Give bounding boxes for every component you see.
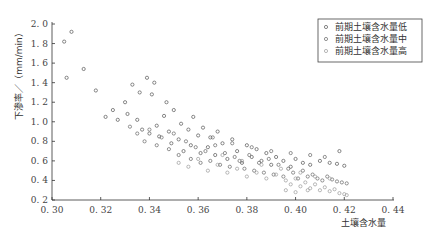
data-point <box>255 171 258 174</box>
data-point <box>236 167 239 170</box>
data-point <box>306 189 309 192</box>
x-axis-title: 土壤含水量 <box>341 217 386 228</box>
data-point <box>182 150 185 153</box>
data-point <box>289 151 292 154</box>
data-point <box>199 161 202 164</box>
x-tick-label: 0. 40 <box>284 205 307 215</box>
y-tick-label: 0. 4 <box>31 175 48 185</box>
data-point <box>345 182 348 185</box>
data-point <box>177 161 180 164</box>
y-tick-label: 1. 8 <box>31 39 48 49</box>
data-point <box>265 151 268 154</box>
y-tick-label: 1. 0 <box>31 117 48 127</box>
data-point <box>226 171 229 174</box>
data-point <box>94 89 97 92</box>
data-point <box>294 157 297 160</box>
y-tick-label: 1. 2 <box>31 97 48 107</box>
data-point <box>155 124 158 127</box>
data-point <box>221 142 224 145</box>
x-tick-label: 0. 34 <box>138 205 161 215</box>
data-point <box>236 150 239 153</box>
x-tick-label: 0. 30 <box>41 205 64 215</box>
data-point <box>274 155 277 158</box>
data-point <box>143 140 146 143</box>
data-point <box>255 148 258 151</box>
data-point <box>172 132 175 135</box>
data-point <box>184 140 187 143</box>
data-point <box>197 157 200 160</box>
data-point <box>148 132 151 135</box>
data-point <box>136 118 139 121</box>
data-point <box>177 138 180 141</box>
data-point <box>70 30 73 33</box>
y-tick-label: 0. 2 <box>31 195 48 205</box>
data-point <box>338 150 341 153</box>
data-point <box>201 126 204 129</box>
data-point <box>301 161 304 164</box>
data-point <box>194 146 197 149</box>
data-point <box>299 171 302 174</box>
data-point <box>265 177 268 180</box>
data-point <box>192 115 195 118</box>
data-point <box>309 163 312 166</box>
legend-label: 前期土壤含水量低 <box>335 21 407 32</box>
data-point <box>287 167 290 170</box>
data-point <box>155 144 158 147</box>
data-point <box>243 167 246 170</box>
data-point <box>214 153 217 156</box>
scatter-chart: 0. 20. 40. 60. 81. 01. 21. 41. 61. 82. 0… <box>0 0 426 244</box>
data-point <box>343 164 346 167</box>
data-point <box>306 175 309 178</box>
data-point <box>138 91 141 94</box>
data-point <box>104 115 107 118</box>
data-point <box>245 175 248 178</box>
data-point <box>177 153 180 156</box>
data-point <box>250 146 253 149</box>
data-point <box>172 108 175 111</box>
data-point <box>270 163 273 166</box>
data-point <box>148 128 151 131</box>
data-point <box>318 159 321 162</box>
data-point <box>206 169 209 172</box>
data-point <box>179 122 182 125</box>
data-point <box>226 157 229 160</box>
data-point <box>335 180 338 183</box>
data-point <box>228 165 231 168</box>
data-point <box>313 183 316 186</box>
data-point <box>335 162 338 165</box>
data-point <box>221 153 224 156</box>
data-point <box>65 76 68 79</box>
y-tick-label: 1. 6 <box>31 58 48 68</box>
data-point <box>206 146 209 149</box>
data-point <box>328 161 331 164</box>
data-point <box>284 189 287 192</box>
data-point <box>313 175 316 178</box>
data-points <box>63 30 349 196</box>
data-point <box>126 112 129 115</box>
data-point <box>340 181 343 184</box>
data-point <box>189 144 192 147</box>
data-point <box>145 76 148 79</box>
data-point <box>323 155 326 158</box>
data-point <box>82 67 85 70</box>
data-point <box>167 130 170 133</box>
data-point <box>170 142 173 145</box>
data-point <box>136 132 139 135</box>
y-tick-label: 0. 6 <box>31 156 48 166</box>
data-point <box>216 130 219 133</box>
data-point <box>197 134 200 137</box>
data-point <box>123 101 126 104</box>
data-point <box>289 183 292 186</box>
data-point <box>323 186 326 189</box>
legend: 前期土壤含水量低前期土壤含水量中前期土壤含水量高 <box>318 19 422 62</box>
x-tick-label: 0. 38 <box>235 205 258 215</box>
data-point <box>292 171 295 174</box>
data-point <box>153 81 156 84</box>
y-axis-ticks: 0. 20. 40. 60. 81. 01. 21. 41. 61. 82. 0 <box>31 19 55 205</box>
data-point <box>63 40 66 43</box>
data-point <box>282 159 285 162</box>
data-point <box>187 128 190 131</box>
data-point <box>165 101 168 104</box>
data-point <box>321 179 324 182</box>
data-point <box>131 83 134 86</box>
